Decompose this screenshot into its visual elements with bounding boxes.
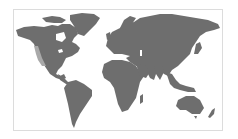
tasmania xyxy=(194,116,197,119)
new-zealand xyxy=(208,108,215,118)
caspian-sea xyxy=(140,50,142,56)
arctic-islands xyxy=(42,16,66,23)
land-masses xyxy=(16,13,220,128)
south-america xyxy=(64,80,92,128)
north-america xyxy=(16,24,80,80)
world-map xyxy=(0,0,238,139)
japan xyxy=(194,42,202,54)
southeast-asia xyxy=(166,72,196,92)
madagascar xyxy=(140,94,143,104)
australia xyxy=(176,96,204,114)
